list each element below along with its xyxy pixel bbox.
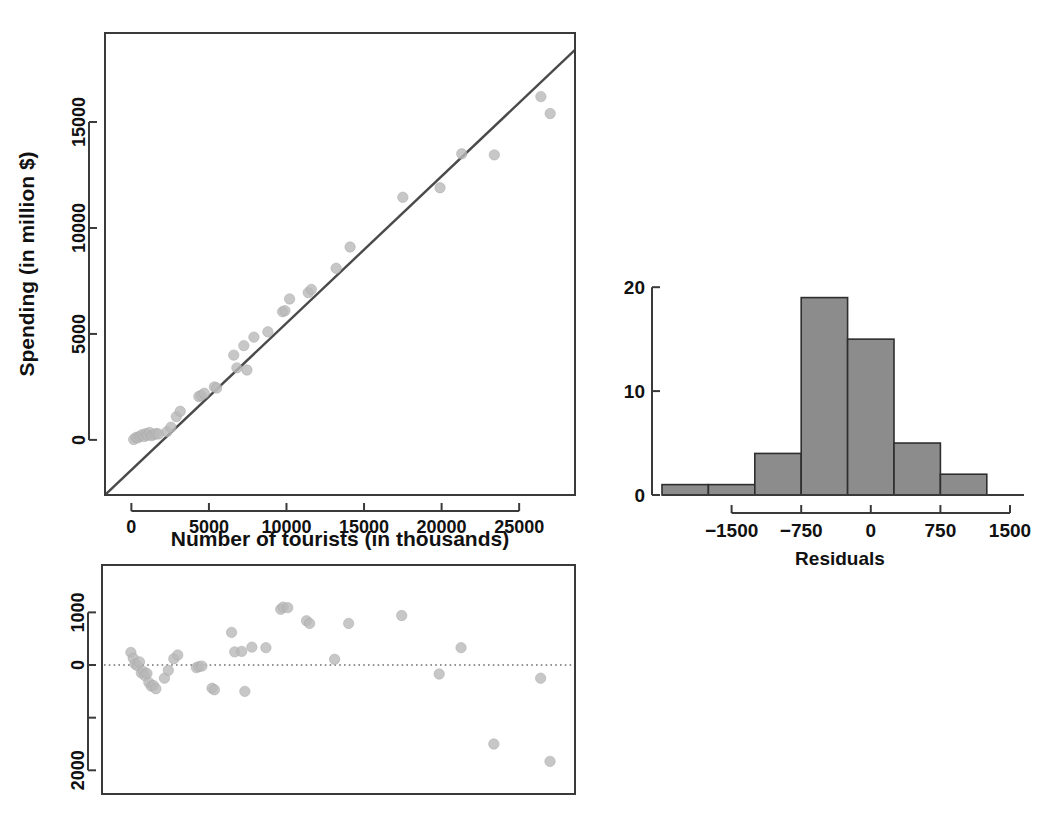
residual-data-layer — [104, 602, 573, 767]
scatter-data-point — [536, 91, 546, 101]
residual-data-point — [173, 650, 183, 660]
histogram-panel: 01020−1500−75007501500 Residuals — [600, 230, 1064, 590]
residual-data-point — [343, 618, 353, 628]
histogram-x-tick-label: 0 — [866, 520, 877, 541]
residual-y-tick-label: 0 — [68, 660, 88, 670]
scatter-data-point — [306, 284, 316, 294]
histogram-bar — [708, 485, 754, 495]
histogram-x-tick-label: −750 — [780, 520, 823, 541]
scatter-data-point — [211, 383, 221, 393]
scatter-y-tick-label: 15000 — [69, 97, 89, 147]
residual-data-point — [151, 684, 161, 694]
scatter-data-layer — [105, 50, 575, 495]
statistical-figure: 0500010000150002000025000050001000015000… — [0, 0, 1064, 838]
histogram-bar — [755, 453, 801, 495]
histogram-x-tick-label: −1500 — [705, 520, 758, 541]
residual-data-point — [197, 661, 207, 671]
scatter-y-tick-label: 0 — [69, 435, 89, 445]
residual-data-point — [489, 739, 499, 749]
residual-y-tick-label: 1000 — [68, 592, 88, 632]
residual-data-point — [304, 618, 314, 628]
histogram-y-tick-label: 10 — [624, 381, 645, 402]
residual-data-point — [329, 654, 339, 664]
scatter-data-point — [239, 340, 249, 350]
residual-data-point — [283, 602, 293, 612]
scatter-data-point — [331, 263, 341, 273]
histogram-x-axis-label: Residuals — [795, 548, 885, 569]
residual-data-point — [434, 669, 444, 679]
residual-data-point — [237, 646, 247, 656]
scatter-data-point — [398, 192, 408, 202]
scatter-data-point — [489, 150, 499, 160]
scatter-data-point — [345, 242, 355, 252]
scatter-x-axis-label: Number of tourists (in thousands) — [171, 527, 509, 550]
scatter-y-tick-label: 5000 — [69, 314, 89, 354]
histogram-x-tick-label: 1500 — [989, 520, 1031, 541]
histogram-y-tick-label: 20 — [624, 277, 645, 298]
scatter-x-tick-label: 0 — [126, 517, 136, 537]
histogram-bar — [848, 339, 894, 495]
residual-data-point — [456, 642, 466, 652]
scatter-y-axis-label: Spending (in million $) — [15, 151, 38, 376]
residual-data-point — [247, 642, 257, 652]
residual-data-point — [240, 686, 250, 696]
histogram-bar — [662, 485, 708, 495]
residual-data-point — [226, 627, 236, 637]
residual-data-point — [163, 665, 173, 675]
scatter-data-point — [242, 365, 252, 375]
residual-plot-panel: 100002000 — [0, 555, 600, 838]
residual-data-point — [134, 657, 144, 667]
scatter-data-point — [457, 149, 467, 159]
scatter-data-point — [229, 350, 239, 360]
scatter-data-point — [280, 305, 290, 315]
residual-plot-frame — [102, 565, 575, 794]
scatter-data-point — [545, 108, 555, 118]
residual-data-point — [397, 610, 407, 620]
histogram-x-tick-label: 750 — [925, 520, 957, 541]
scatter-data-point — [284, 294, 294, 304]
scatter-data-point — [166, 422, 176, 432]
scatter-data-point — [199, 388, 209, 398]
histogram-svg: 01020−1500−75007501500 Residuals — [600, 230, 1064, 590]
histogram-bar — [940, 474, 986, 495]
residual-data-point — [545, 756, 555, 766]
scatter-panel: 0500010000150002000025000050001000015000… — [0, 0, 600, 560]
residual-data-point — [535, 673, 545, 683]
residual-data-point — [261, 642, 271, 652]
scatter-plot-svg: 0500010000150002000025000050001000015000… — [0, 0, 600, 560]
histogram-bar — [801, 298, 847, 495]
scatter-data-point — [435, 183, 445, 193]
residual-data-point — [209, 685, 219, 695]
scatter-data-point — [263, 327, 273, 337]
residual-plot-svg: 100002000 — [0, 555, 600, 838]
histogram-y-tick-label: 0 — [634, 485, 645, 506]
scatter-data-point — [232, 363, 242, 373]
histogram-bar — [894, 443, 940, 495]
residual-data-point — [142, 668, 152, 678]
residual-y-tick-label: 2000 — [68, 750, 88, 790]
scatter-data-point — [249, 332, 259, 342]
scatter-y-tick-label: 10000 — [69, 203, 89, 253]
scatter-data-point — [175, 406, 185, 416]
